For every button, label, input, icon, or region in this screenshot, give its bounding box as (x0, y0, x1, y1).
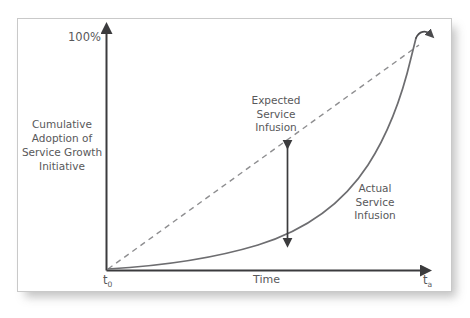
diagram-stage: 100% Cumulative Adoption of Service Grow… (0, 0, 470, 318)
x-axis-title: Time (253, 274, 280, 287)
expected-service-infusion-label: Expected Service Infusion (233, 94, 319, 135)
expected-label-line-2: Service (257, 108, 296, 120)
x-axis-end-tick-subscript: a (428, 280, 433, 289)
y-axis-max-label: 100% (68, 31, 101, 45)
actual-label-line-3: Infusion (354, 209, 396, 221)
actual-label-line-2: Service (356, 196, 395, 208)
x-axis-end-tick-label: ta (423, 274, 432, 288)
actual-label-line-1: Actual (359, 182, 392, 194)
expected-label-line-3: Infusion (255, 121, 297, 133)
y-axis-title: Cumulative Adoption of Service Growth In… (20, 118, 104, 173)
y-axis-title-line-1: Cumulative (32, 118, 92, 130)
y-axis-title-line-4: Initiative (39, 160, 85, 172)
y-axis-title-line-3: Service Growth (22, 146, 102, 158)
x-axis-start-tick-label: t0 (103, 274, 112, 288)
x-axis-end-tick-base: t (423, 273, 428, 287)
x-axis-start-tick-base: t (103, 273, 108, 287)
y-axis-title-line-2: Adoption of (32, 132, 92, 144)
expected-label-line-1: Expected (252, 94, 301, 106)
actual-service-infusion-label: Actual Service Infusion (338, 182, 412, 223)
x-axis-start-tick-subscript: 0 (108, 280, 113, 289)
